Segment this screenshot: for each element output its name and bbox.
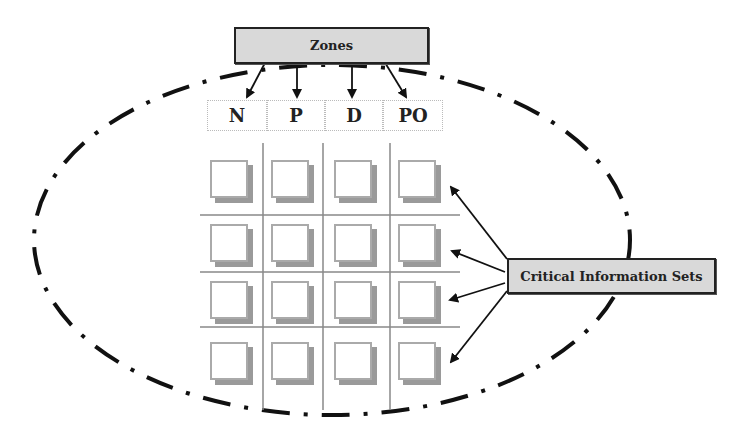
critical-information-sets-label-box: Critical Information Sets (507, 258, 716, 294)
info-set-square (334, 160, 372, 198)
zone-header-p: P (267, 100, 325, 131)
critical-arrows (450, 187, 507, 362)
info-set-square (271, 160, 309, 198)
zone-header-n: N (207, 100, 267, 131)
zones-label-box: Zones (234, 27, 429, 64)
info-set-square (271, 281, 309, 319)
zone-header-d: D (325, 100, 383, 131)
info-set-square (210, 342, 248, 380)
info-set-square (398, 224, 436, 262)
zone-header-po: PO (383, 100, 443, 131)
info-set-square (398, 160, 436, 198)
info-set-square (398, 281, 436, 319)
info-set-square (210, 224, 248, 262)
zones-diagram: Zones N P D PO Critical Information Sets (0, 0, 740, 443)
info-set-square (334, 342, 372, 380)
info-set-square (210, 160, 248, 198)
info-set-square (271, 342, 309, 380)
info-set-square (398, 342, 436, 380)
info-set-square (210, 281, 248, 319)
info-set-square (334, 281, 372, 319)
info-set-square (334, 224, 372, 262)
info-set-square (271, 224, 309, 262)
